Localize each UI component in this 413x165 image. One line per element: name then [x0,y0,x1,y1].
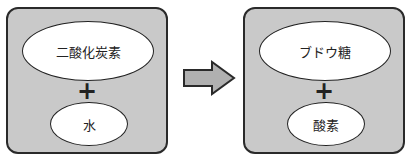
oxygen-ellipse: 酸素 [287,102,365,146]
right-arrow-icon [182,60,236,96]
plus-icon: + [8,79,166,103]
plus-icon: + [245,79,403,103]
reactants-panel: 二酸化炭素 + 水 [6,7,168,154]
water-ellipse: 水 [50,102,128,146]
carbon-dioxide-ellipse: 二酸化炭素 [22,21,154,81]
glucose-ellipse: ブドウ糖 [259,21,391,81]
products-panel: ブドウ糖 + 酸素 [243,7,405,154]
glucose-label: ブドウ糖 [299,42,351,61]
carbon-dioxide-label: 二酸化炭素 [56,42,121,61]
water-label: 水 [83,115,96,134]
oxygen-label: 酸素 [313,115,339,134]
